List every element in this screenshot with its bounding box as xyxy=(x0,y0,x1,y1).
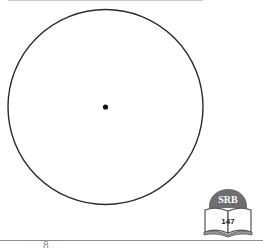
srb-badge-icon: SRB 147 xyxy=(201,186,255,238)
page-number-fragment: 8 xyxy=(43,241,49,248)
center-point xyxy=(103,104,108,109)
badge-title: SRB xyxy=(218,194,238,205)
badge-page-ref: 147 xyxy=(221,217,235,226)
bottom-rule xyxy=(0,240,263,241)
